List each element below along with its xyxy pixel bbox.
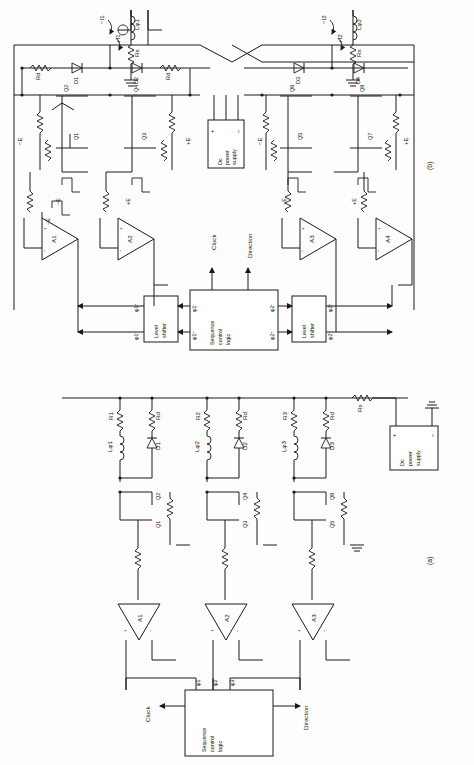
- supply-label-line1-a: Dc: [399, 459, 405, 466]
- level-shifter-2-line2: shifter: [309, 323, 315, 338]
- logic-a-line2: control: [209, 736, 215, 752]
- b-load-branch-2: Lφ2 Rs −I2 +I2: [320, 10, 362, 86]
- label-Lphi3-a: Lφ3: [280, 441, 287, 452]
- b-waveform-row-upper: −E +E −E +E: [55, 178, 376, 205]
- b-dc-power-supply: Dc power supply + −: [208, 95, 244, 168]
- logic-a-input-clock: Clock: [144, 706, 151, 722]
- b-level-shifter-2: Level shifter φ2⁺ φ2⁻: [292, 285, 392, 342]
- level-shifter-1-line2: shifter: [161, 323, 167, 338]
- opamp-A2a-minus: −: [235, 629, 240, 632]
- b-bridge1-diode-row: Rd D1 D2 Rd: [20, 10, 210, 84]
- opamp-A3a-plus: +: [296, 629, 301, 632]
- signal-phi1-minus-out: φ1⁻: [133, 331, 139, 341]
- circuit-diagram: Lφ1 Rs −I1 +I1 Lφ2 Rs −I2 +I2: [0, 0, 474, 765]
- part-b-caption: (b): [426, 161, 434, 170]
- logic-a-out-phi2: φ2: [212, 680, 218, 687]
- logic-out-phi2-plus: φ2⁺: [269, 331, 275, 341]
- transistor-Q4-icon: [124, 96, 156, 110]
- transistor-Q2-icon: [52, 96, 88, 110]
- waveform-rail-plusE-2: +E: [351, 198, 357, 205]
- ground-symbol-icon: [350, 545, 364, 551]
- logic-a-line1: Sequence: [201, 728, 207, 752]
- label-Rs-a: Rs: [356, 404, 363, 412]
- opamp-A3a-minus: −: [322, 629, 327, 632]
- rail-label-minusE-b2: −E: [256, 137, 263, 145]
- label-Lphi2-a: Lφ2: [193, 441, 200, 452]
- label-Rd-b1-right: Rd: [165, 73, 171, 80]
- waveform-label-minusE-a1: −E: [45, 218, 51, 225]
- logic-a-input-direction: Direction: [302, 705, 309, 730]
- b-opamp-A3: A3 − +: [282, 172, 336, 300]
- label-Rd-b1-left: Rd: [35, 73, 41, 80]
- supply-label-line1-b: Dc: [217, 158, 223, 165]
- level-shifter-2-line1: Level: [301, 325, 307, 338]
- b-sequence-control-logic: Sequence control logic φ1⁻ φ1⁺ φ2⁻ φ2⁺ C…: [178, 233, 292, 350]
- part-a-group: Rs Dc power supply + − R1 Lφ1: [62, 395, 439, 756]
- label-Q7: Q7: [367, 133, 373, 140]
- label-A2-b: A2: [126, 235, 133, 243]
- label-Q4: Q4: [133, 85, 139, 92]
- label-Q3: Q3: [141, 133, 147, 140]
- ground-symbol-icon: [425, 402, 439, 408]
- label-Rd-a2: Rd: [241, 412, 248, 420]
- label-Rs-b1: Rs: [133, 49, 140, 57]
- b-bridge1-transistors: Q2 Q1 Q4 Q3: [37, 85, 175, 172]
- rail-label-minusE-b1: −E: [16, 137, 23, 145]
- logic-b-input-clock: Clock: [210, 234, 217, 250]
- label-D2-a: D2: [241, 442, 248, 450]
- opamp-A4-plus: +: [376, 227, 381, 230]
- supply-minus-b: −: [235, 129, 242, 133]
- label-Rd-a3: Rd: [328, 412, 335, 420]
- logic-b-line2: control: [217, 329, 223, 345]
- transistor-Q8-icon: [350, 96, 382, 110]
- label-D1-b: D1: [73, 77, 79, 84]
- b-level-shifter-1: Level shifter φ1⁺ φ1⁻: [78, 285, 178, 342]
- b-opamp-A2: A2 − +: [100, 172, 168, 285]
- label-Lphi1-a: Lφ1: [106, 441, 113, 452]
- opamp-A1-plus: +: [42, 227, 47, 230]
- a-sequence-control-logic: Sequence control logic φ1 φ2 φ3 Clock Di…: [126, 678, 309, 756]
- label-Q4-a: Q4: [242, 493, 248, 500]
- label-Q5: Q5: [297, 133, 303, 140]
- supply-label-line3-b: supply: [231, 149, 237, 165]
- label-minus-I1: −I1: [98, 15, 105, 24]
- logic-b-line3: logic: [225, 334, 231, 345]
- a-dc-power-supply: Dc power supply + −: [390, 402, 439, 470]
- opamp-A1-minus: −: [42, 249, 47, 252]
- label-A3-a: A3: [310, 614, 317, 622]
- label-D3-a: D3: [328, 442, 335, 450]
- opamp-A3-plus: +: [300, 227, 305, 230]
- label-Q8: Q8: [359, 85, 365, 92]
- label-L-phi1-b: Lφ1: [133, 19, 140, 30]
- waveform-rail-plusE-1: +E: [125, 198, 131, 205]
- opamp-A4-minus: −: [376, 249, 381, 252]
- label-minus-I2: −I2: [320, 15, 327, 24]
- label-Q3-a: Q3: [242, 521, 248, 528]
- part-a-caption: (a): [426, 556, 434, 565]
- label-D2-b: D2: [133, 77, 139, 84]
- label-Q2-a: Q2: [155, 493, 161, 500]
- label-plus-I2: +I2: [336, 34, 343, 43]
- logic-a-out-phi3: φ3: [229, 680, 235, 687]
- signal-phi1-plus-out: φ1⁺: [133, 303, 139, 313]
- label-Rd-a1: Rd: [154, 412, 161, 420]
- logic-a-line3: logic: [217, 741, 223, 752]
- label-Q6-a: Q6: [329, 493, 335, 500]
- supply-label-line2-a: power: [407, 451, 413, 466]
- label-A1-a: A1: [136, 614, 143, 622]
- part-b-group: Lφ1 Rs −I1 +I1 Lφ2 Rs −I2 +I2: [14, 10, 434, 350]
- a-phase-2: R2 Lφ2 Rd D2 Q4 Q3: [193, 398, 277, 690]
- label-A3-b: A3: [308, 235, 315, 243]
- rail-label-plusE-b1: +E: [184, 137, 191, 145]
- label-Q5-a: Q5: [329, 521, 335, 528]
- a-phase-1: R1 Lφ1 Rd D1 Q2 Q1: [106, 398, 190, 690]
- figure-canvas: Lφ1 Rs −I1 +I1 Lφ2 Rs −I2 +I2: [0, 0, 474, 765]
- label-Q6: Q6: [289, 85, 295, 92]
- label-Q1: Q1: [73, 133, 79, 140]
- label-R3-a: R3: [281, 412, 288, 420]
- label-Rs-b2: Rs: [355, 49, 362, 57]
- supply-label-line3-a: supply: [415, 450, 421, 466]
- label-plus-I1: +I1: [114, 34, 121, 43]
- b-opamp-A1: A1 − + −E: [24, 172, 78, 300]
- label-R1-a: R1: [107, 412, 114, 420]
